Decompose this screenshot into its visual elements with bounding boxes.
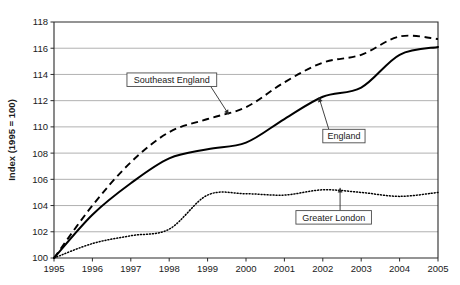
y-tick-label: 104 [32, 200, 48, 211]
annotation-label: England [327, 131, 360, 141]
x-tick-label: 1997 [120, 263, 141, 274]
y-tick-label: 112 [33, 95, 48, 106]
y-axis-title: Index (1995 = 100) [6, 99, 17, 181]
y-tick-label: 108 [32, 148, 48, 159]
line-chart: 100102104106108110112114116118 199519961… [0, 0, 460, 285]
chart-container: 100102104106108110112114116118 199519961… [0, 0, 460, 285]
chart-background [0, 0, 460, 285]
y-tick-label: 100 [32, 252, 48, 263]
x-tick-label: 2000 [235, 263, 256, 274]
x-tick-label: 1999 [197, 263, 218, 274]
y-tick-label: 114 [33, 69, 48, 80]
annotation-label: Southeast England [134, 75, 210, 85]
x-tick-label: 1995 [43, 263, 64, 274]
y-tick-label: 110 [33, 121, 48, 132]
x-tick-label: 2002 [312, 263, 333, 274]
x-tick-label: 1996 [82, 263, 103, 274]
x-tick-label: 2005 [427, 263, 448, 274]
x-tick-label: 2004 [389, 263, 410, 274]
y-tick-label: 106 [32, 174, 48, 185]
annotation-label: Greater London [302, 213, 365, 223]
y-tick-label: 102 [32, 226, 48, 237]
y-tick-label: 116 [33, 43, 48, 54]
x-tick-label: 2001 [274, 263, 295, 274]
x-tick-label: 2003 [351, 263, 372, 274]
y-tick-label: 118 [33, 16, 48, 27]
x-tick-label: 1998 [159, 263, 180, 274]
